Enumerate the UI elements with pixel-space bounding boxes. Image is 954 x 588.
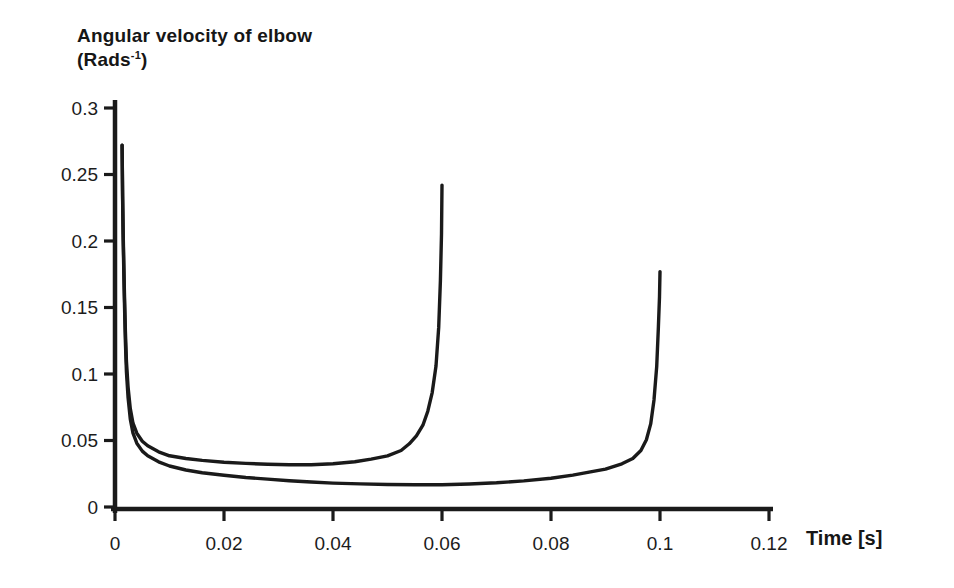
- x-tick-label: 0.1: [647, 533, 673, 554]
- x-axis-title: Time [s]: [806, 527, 882, 550]
- x-tick-label: 0.02: [206, 533, 243, 554]
- y-tick-label: 0.3: [72, 98, 98, 119]
- y-tick-label: 0.1: [72, 364, 98, 385]
- x-tick-label: 0.12: [751, 533, 788, 554]
- series-curve-slow-movement-curve-ending-0.1s: [122, 145, 660, 485]
- y-tick-label: 0.05: [61, 430, 98, 451]
- x-tick-label: 0.06: [424, 533, 461, 554]
- y-tick-label: 0.15: [61, 297, 98, 318]
- figure-canvas: Angular velocity of elbow (Rads-1) 00.05…: [0, 0, 954, 588]
- plot-area: 00.050.10.150.20.250.300.020.040.060.080…: [0, 0, 954, 588]
- x-tick-label: 0.08: [533, 533, 570, 554]
- x-tick-label: 0: [110, 533, 121, 554]
- y-tick-label: 0.25: [61, 164, 98, 185]
- series-curve-fast-movement-curve-ending-0.06s: [122, 145, 442, 465]
- y-tick-label: 0.2: [72, 231, 98, 252]
- x-tick-label: 0.04: [315, 533, 352, 554]
- y-tick-label: 0: [87, 497, 98, 518]
